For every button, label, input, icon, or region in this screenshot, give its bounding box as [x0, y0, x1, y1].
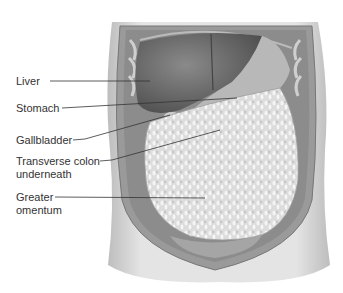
label-transverse-colon: Transverse colon underneath	[16, 155, 100, 181]
label-stomach: Stomach	[16, 102, 59, 115]
label-transverse-colon-line2: underneath	[16, 168, 100, 181]
label-greater-omentum-line2: omentum	[16, 204, 62, 217]
label-liver-text: Liver	[16, 75, 40, 87]
label-transverse-colon-line1: Transverse colon	[16, 155, 100, 168]
label-stomach-text: Stomach	[16, 102, 59, 114]
label-greater-omentum-line1: Greater	[16, 191, 62, 204]
label-greater-omentum: Greater omentum	[16, 191, 62, 217]
label-liver: Liver	[16, 75, 40, 88]
label-gallbladder: Gallbladder	[16, 134, 72, 147]
label-gallbladder-text: Gallbladder	[16, 134, 72, 146]
